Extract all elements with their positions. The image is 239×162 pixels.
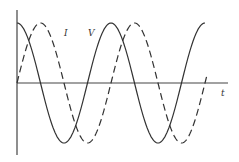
current-label: I <box>64 29 68 38</box>
voltage-label: V <box>88 29 95 38</box>
waveform-plot <box>0 0 239 162</box>
time-axis-label: t <box>221 89 225 98</box>
